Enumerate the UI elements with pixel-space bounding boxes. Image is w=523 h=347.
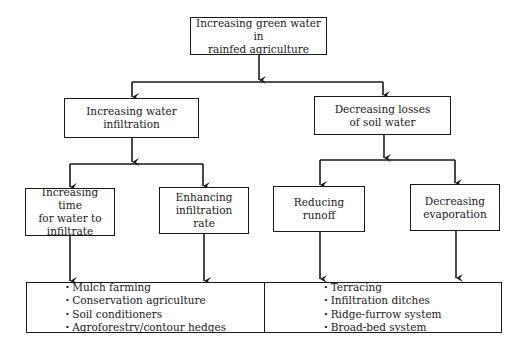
- practice-item: Soil conditioners: [65, 308, 226, 322]
- root-label-line: rainfed agriculture: [195, 43, 322, 56]
- practices-box: Mulch farming Conservation agriculture S…: [26, 282, 502, 333]
- node-label-line: for water to: [30, 212, 110, 225]
- practice-item: Infiltration ditches: [323, 294, 441, 308]
- node-label-line: Reducing runoff: [278, 196, 360, 222]
- node-enhancing-infiltration-rate: Enhancing infiltration rate: [159, 187, 249, 234]
- node-reducing-runoff: Reducing runoff: [273, 186, 365, 232]
- node-label-line: Decreasing: [423, 195, 486, 208]
- root-node: Increasing green water in rainfed agricu…: [190, 17, 327, 55]
- node-label-line: Enhancing: [164, 191, 244, 204]
- practices-right: Terracing Infiltration ditches Ridge-fur…: [264, 283, 501, 332]
- node-label-line: infiltration: [86, 118, 177, 131]
- practice-item: Ridge-furrow system: [323, 308, 441, 322]
- node-label-line: of soil water: [335, 116, 431, 129]
- node-increasing-time-to-infiltrate: Increasing time for water to infiltrate: [25, 188, 115, 236]
- node-label-line: infiltrate: [30, 225, 110, 238]
- practice-item: Broad-bed system: [323, 321, 441, 335]
- practice-item: Terracing: [323, 281, 441, 295]
- node-label-line: Increasing time: [30, 186, 110, 212]
- node-decreasing-evaporation: Decreasing evaporation: [410, 184, 500, 231]
- node-label-line: Increasing water: [86, 105, 177, 118]
- practices-left: Mulch farming Conservation agriculture S…: [27, 283, 265, 332]
- node-label-line: infiltration rate: [164, 204, 244, 230]
- node-label-line: evaporation: [423, 208, 486, 221]
- node-decreasing-losses-soil-water: Decreasing losses of soil water: [314, 96, 451, 135]
- practice-item: Agroforestry/contour hedges: [65, 321, 226, 335]
- practice-item: Conservation agriculture: [65, 294, 226, 308]
- node-label-line: Decreasing losses: [335, 103, 431, 116]
- practice-item: Mulch farming: [65, 281, 226, 295]
- node-increasing-water-infiltration: Increasing water infiltration: [64, 98, 199, 138]
- root-label-line: Increasing green water in: [195, 17, 322, 43]
